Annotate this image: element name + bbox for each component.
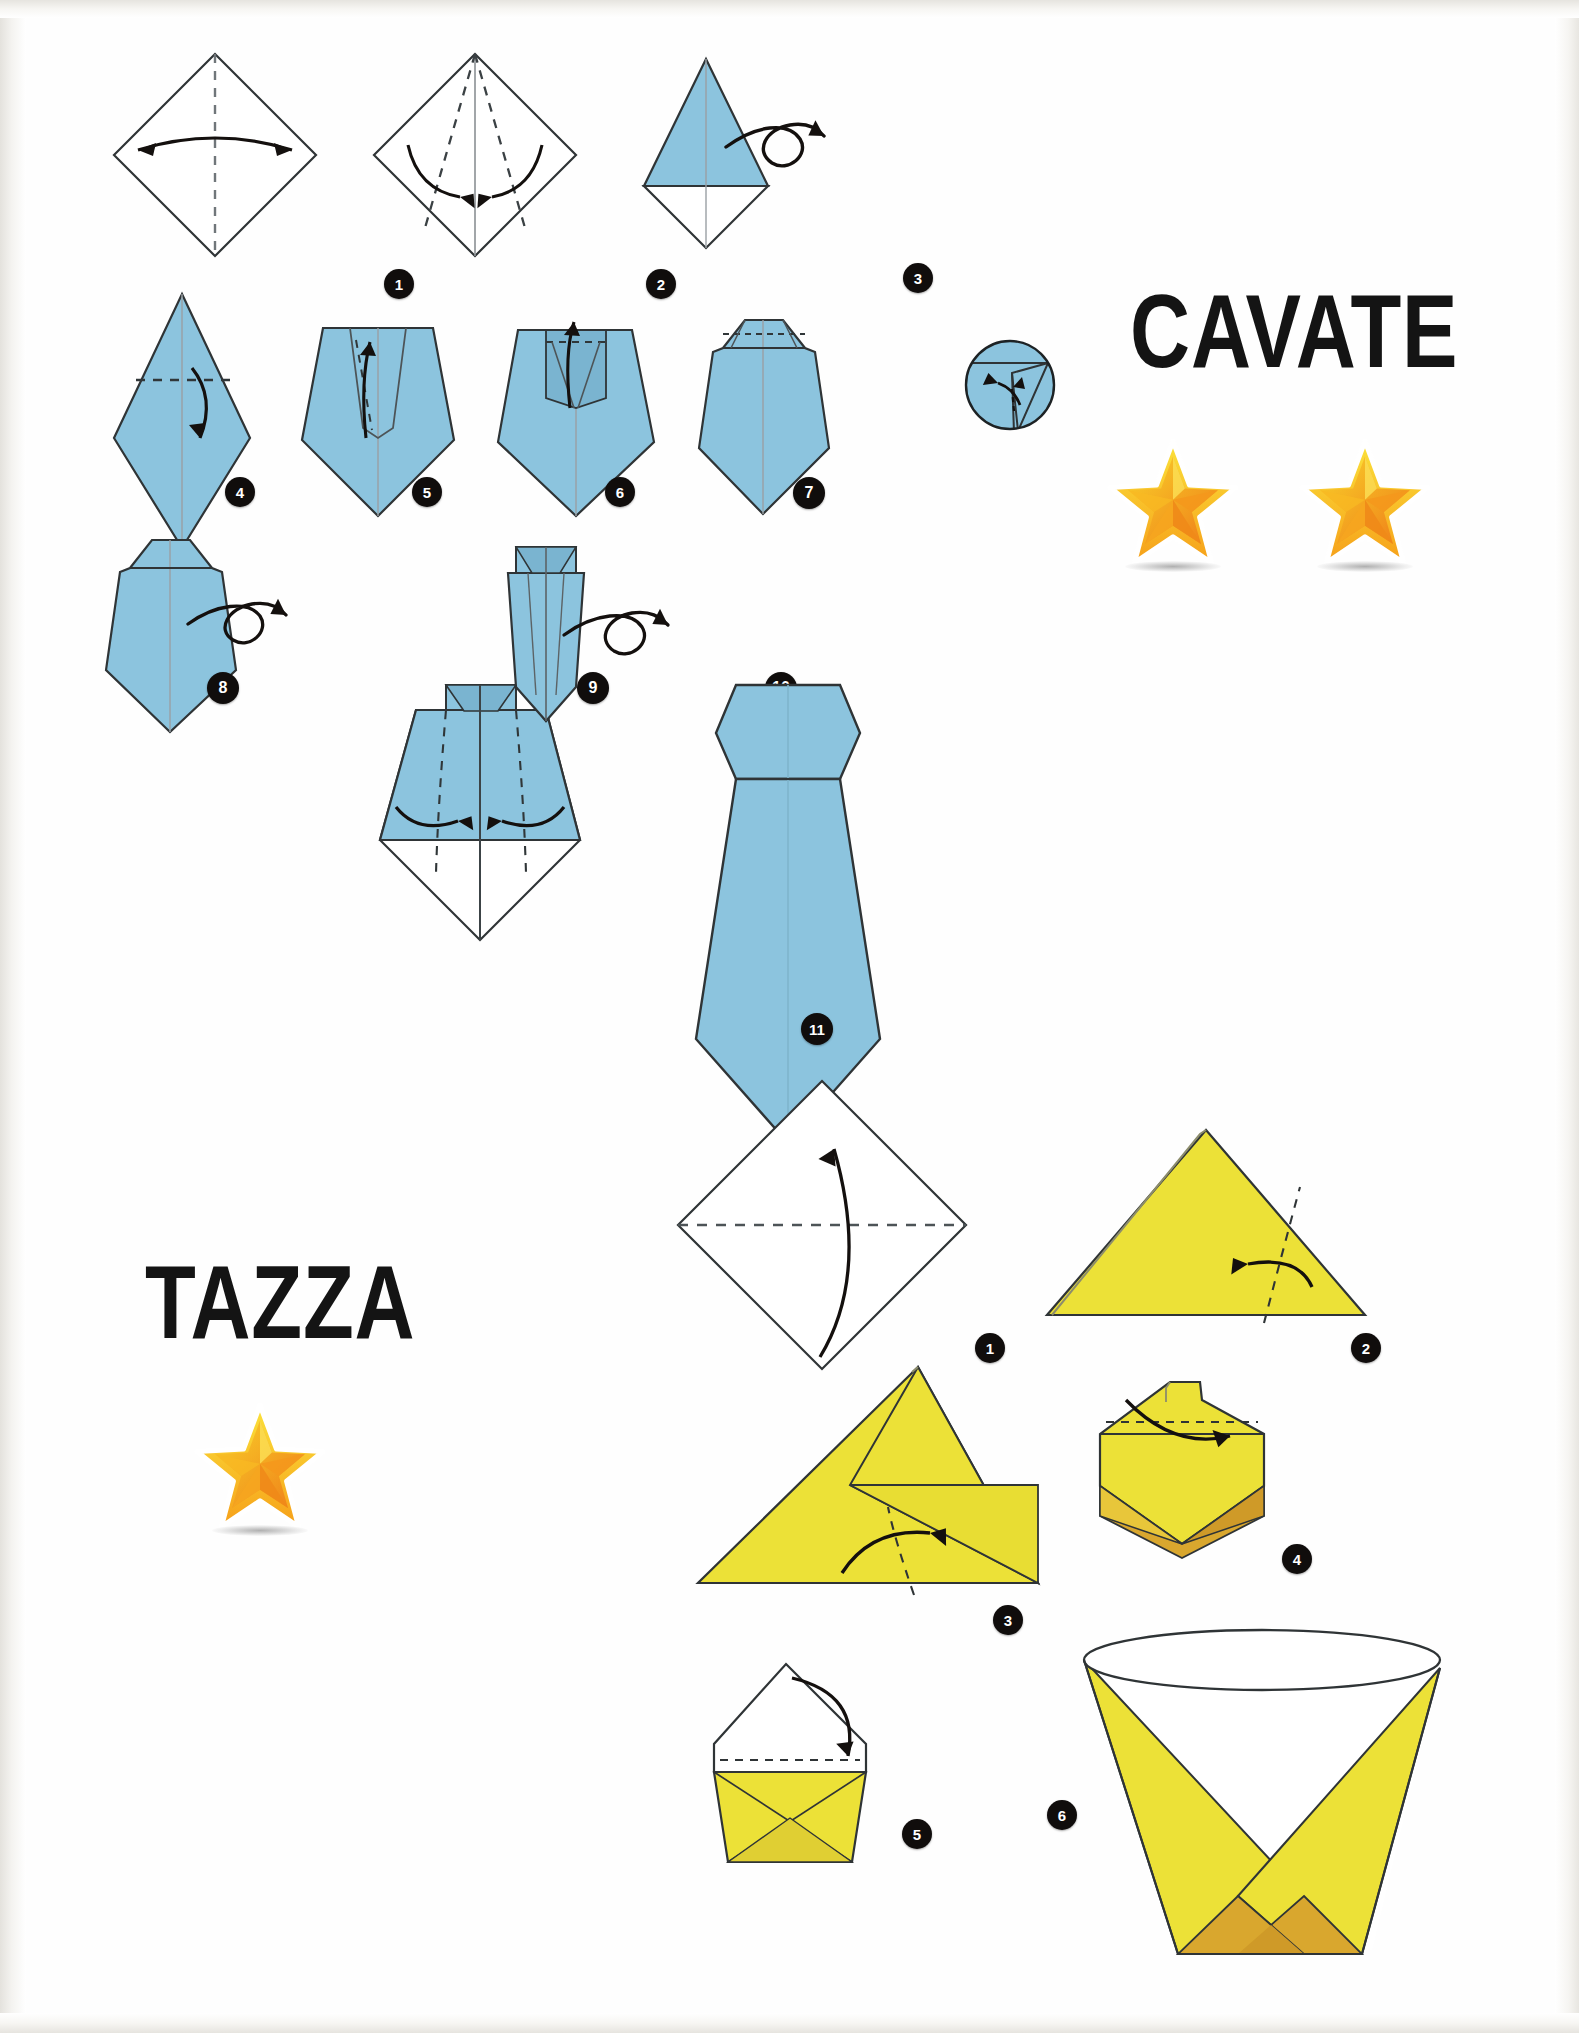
page-edge-top <box>0 0 1579 18</box>
figure-cavate-step-3 <box>638 55 898 255</box>
difficulty-stars-cavate <box>1103 434 1435 574</box>
step-badge-tazza-6[interactable]: 6 <box>1047 1800 1077 1830</box>
difficulty-star <box>1295 434 1435 574</box>
step-badge-tazza-3[interactable]: 3 <box>993 1605 1023 1635</box>
page-edge-bottom <box>0 2013 1579 2033</box>
figure-tazza-step-6-finished-cup <box>1042 1598 1462 1998</box>
figure-cavate-step-8 <box>60 520 320 740</box>
step-badge-cavate-6[interactable]: 6 <box>605 477 635 507</box>
figure-tazza-step-3 <box>690 1355 1050 1615</box>
step-badge-cavate-7[interactable]: 7 <box>793 477 825 509</box>
difficulty-star <box>1103 434 1243 574</box>
model-title-cavate: CAVATE <box>1130 272 1458 391</box>
figure-cavate-step-1 <box>110 50 320 260</box>
step-badge-tazza-5[interactable]: 5 <box>902 1819 932 1849</box>
step-badge-tazza-2[interactable]: 2 <box>1351 1333 1381 1363</box>
figure-tazza-step-1 <box>672 1075 972 1375</box>
step-badge-cavate-5[interactable]: 5 <box>412 477 442 507</box>
difficulty-stars-tazza <box>190 1398 330 1538</box>
step-badge-cavate-2[interactable]: 2 <box>646 269 676 299</box>
model-title-tazza: TAZZA <box>145 1243 415 1362</box>
step-badge-cavate-8[interactable]: 8 <box>207 672 239 704</box>
step-badge-cavate-1[interactable]: 1 <box>384 269 414 299</box>
figure-tazza-step-2 <box>1040 1125 1370 1335</box>
difficulty-star <box>190 1398 330 1538</box>
figure-tazza-step-4 <box>1078 1378 1288 1578</box>
step-badge-cavate-4[interactable]: 4 <box>225 477 255 507</box>
figure-cavate-step-2 <box>370 50 580 260</box>
step-badge-tazza-4[interactable]: 4 <box>1282 1544 1312 1574</box>
step-badge-cavate-3[interactable]: 3 <box>903 263 933 293</box>
step-badge-cavate-11[interactable]: 11 <box>801 1013 833 1045</box>
figure-cavate-step-7-detail-inset <box>952 327 1072 447</box>
figure-tazza-step-5 <box>680 1660 900 1900</box>
origami-instruction-page: 1 2 3 4 <box>0 0 1579 2033</box>
